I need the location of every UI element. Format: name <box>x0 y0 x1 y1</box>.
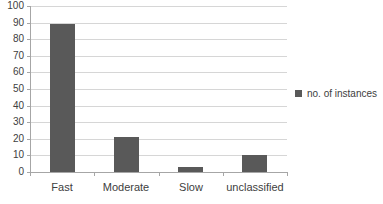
x-axis-label-fast: Fast <box>30 181 94 194</box>
y-axis-label: 100 <box>0 0 24 12</box>
y-axis-line <box>30 6 31 172</box>
x-axis-label-moderate: Moderate <box>94 181 158 194</box>
y-axis-label: 10 <box>0 149 24 161</box>
gridline <box>30 6 287 7</box>
y-axis-label: 20 <box>0 133 24 145</box>
y-axis-label: 60 <box>0 66 24 78</box>
x-axis-tick <box>287 172 288 176</box>
bar-chart: 0102030405060708090100FastModerateSlowun… <box>0 0 383 204</box>
y-axis-label: 70 <box>0 50 24 62</box>
y-axis-label: 80 <box>0 33 24 45</box>
y-axis-label: 90 <box>0 17 24 29</box>
bar-moderate <box>114 137 139 172</box>
y-axis-label: 0 <box>0 166 24 178</box>
bar-fast <box>50 24 75 172</box>
legend: no. of instances <box>295 88 377 99</box>
x-axis-tick <box>94 172 95 176</box>
bar-unclassified <box>242 155 267 172</box>
x-axis-tick <box>223 172 224 176</box>
y-axis-label: 30 <box>0 116 24 128</box>
x-axis-tick <box>30 172 31 176</box>
y-axis-label: 50 <box>0 83 24 95</box>
x-axis-label-slow: Slow <box>159 181 223 194</box>
legend-label: no. of instances <box>307 88 377 99</box>
legend-swatch-icon <box>295 90 302 97</box>
x-axis-label-unclassified: unclassified <box>223 181 287 194</box>
x-axis-tick <box>159 172 160 176</box>
y-axis-label: 40 <box>0 100 24 112</box>
